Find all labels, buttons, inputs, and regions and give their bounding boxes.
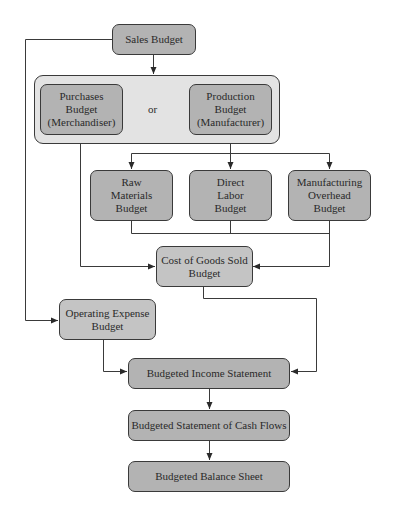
budgeted-income-statement-node: Budgeted Income Statement: [128, 358, 290, 389]
raw-materials-budget-node: Raw Materials Budget: [90, 170, 173, 221]
or-label: or: [148, 103, 157, 115]
budgeted-cash-flows-node: Budgeted Statement of Cash Flows: [128, 410, 290, 441]
budgeted-balance-sheet-node: Budgeted Balance Sheet: [128, 461, 290, 492]
operating-expense-budget-node: Operating Expense Budget: [59, 299, 156, 340]
purchases-budget-node: Purchases Budget (Merchandiser): [40, 84, 123, 135]
production-budget-node: Production Budget (Manufacturer): [189, 84, 272, 135]
cost-of-goods-sold-budget-node: Cost of Goods Sold Budget: [156, 246, 253, 287]
sales-budget-node: Sales Budget: [112, 24, 196, 55]
budget-flow-diagram: Sales Budget Purchases Budget (Merchandi…: [0, 0, 393, 514]
direct-labor-budget-node: Direct Labor Budget: [189, 170, 272, 221]
manufacturing-overhead-budget-node: Manufacturing Overhead Budget: [288, 170, 371, 221]
